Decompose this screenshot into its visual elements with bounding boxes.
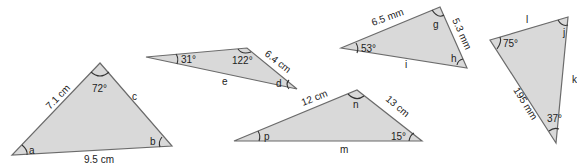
side-label-k: k (572, 74, 577, 85)
triangle-jkl: 75° j 37° l k 195 mm (490, 14, 577, 143)
triangle-de: 31° 122° d e 6.4 cm (146, 48, 297, 89)
angle-label-53: 53° (361, 43, 376, 54)
triangle-ghi: 53° g h i 6.5 mm 5.3 mm (341, 6, 474, 70)
angle-label-p: p (264, 131, 270, 142)
side-label-l: l (526, 14, 528, 25)
angle-label-122: 122° (232, 55, 253, 66)
side-label-e: e (222, 76, 228, 87)
side-label-9-5cm: 9.5 cm (84, 154, 114, 163)
angle-label-n: n (353, 99, 359, 110)
triangle-abc: 72° a b c 7.1 cm 9.5 cm (12, 63, 172, 163)
angle-label-a: a (29, 145, 35, 156)
side-label-c: c (132, 91, 137, 102)
angle-label-72: 72° (92, 83, 107, 94)
triangle-mnp: p n 15° m 12 cm 13 cm (234, 87, 422, 155)
angle-label-h: h (451, 53, 457, 64)
side-label-m: m (340, 144, 348, 155)
angle-label-15: 15° (391, 131, 406, 142)
angle-label-75: 75° (503, 38, 518, 49)
angle-label-d: d (276, 78, 282, 89)
angle-label-31: 31° (181, 54, 196, 65)
triangles-diagram: 72° a b c 7.1 cm 9.5 cm 31° 122° d e 6.4… (0, 0, 577, 163)
side-label-i: i (405, 59, 407, 70)
angle-label-g: g (433, 19, 439, 30)
angle-label-37: 37° (547, 113, 562, 124)
angle-label-j: j (562, 27, 565, 38)
angle-label-b: b (150, 136, 156, 147)
